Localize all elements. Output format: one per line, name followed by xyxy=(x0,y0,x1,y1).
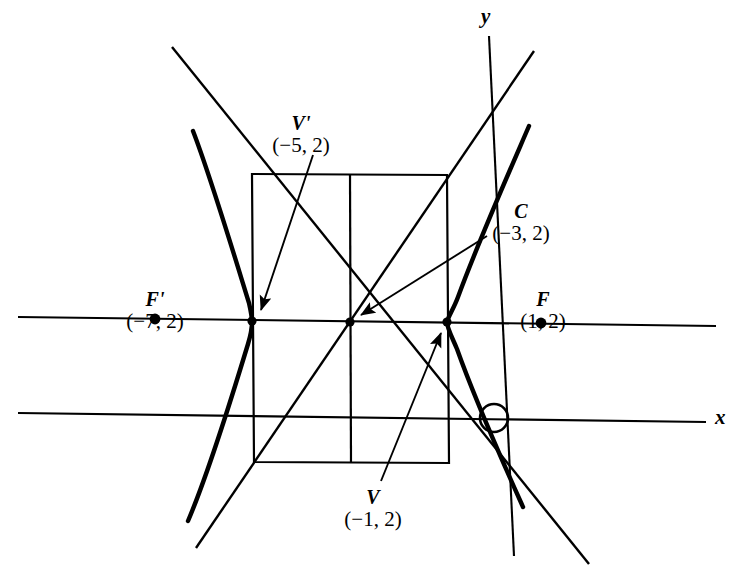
point-coords-f: (1, 2) xyxy=(488,310,598,334)
leader-arrow-vprime xyxy=(261,155,313,310)
point-coords-v-prime: (−5, 2) xyxy=(246,134,356,158)
vertex-right-marker xyxy=(442,317,451,326)
point-label-v-prime: V' (−5, 2) xyxy=(246,112,356,158)
point-coords-f-prime: (−7, 2) xyxy=(100,310,210,334)
point-label-v: V (−1, 2) xyxy=(318,486,428,532)
y-axis-label: y xyxy=(481,4,490,29)
point-name-f: F xyxy=(488,288,598,310)
point-coords-c: (−3, 2) xyxy=(466,222,576,246)
point-label-f: F (1, 2) xyxy=(488,288,598,334)
vertex-left-marker xyxy=(247,316,256,325)
x-axis-label: x xyxy=(715,405,726,430)
point-name-c: C xyxy=(466,200,576,222)
point-label-c: C (−3, 2) xyxy=(466,200,576,246)
x-axis-line xyxy=(18,413,706,422)
point-coords-v: (−1, 2) xyxy=(318,508,428,532)
hyperbola-figure: V' (−5, 2) C (−3, 2) F' (−7, 2) F (1, 2)… xyxy=(0,0,744,583)
point-name-v: V xyxy=(318,486,428,508)
point-name-f-prime: F' xyxy=(100,288,210,310)
center-marker xyxy=(345,317,354,326)
point-name-v-prime: V' xyxy=(246,112,356,134)
point-label-f-prime: F' (−7, 2) xyxy=(100,288,210,334)
leader-arrow-v xyxy=(381,333,441,481)
